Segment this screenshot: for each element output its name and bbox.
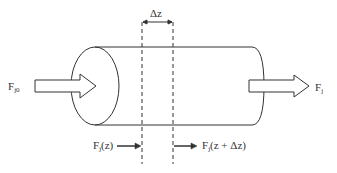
flow-in-z-label: Fj(z)	[93, 140, 113, 153]
flow-in-arrow-icon	[117, 143, 141, 149]
cylinder	[71, 47, 264, 125]
delta-z-dimension	[143, 20, 172, 24]
reactor-diagram	[0, 0, 337, 173]
flow-in-z-argument: (z)	[101, 139, 113, 151]
outlet-flow-subscript: j	[321, 87, 323, 95]
flow-out-arrow-icon	[174, 143, 197, 149]
delta-z-label: Δz	[150, 8, 162, 19]
inlet-arrow-icon	[35, 74, 96, 98]
outlet-flow-label: Fj	[315, 82, 323, 95]
differential-slice-lines	[142, 22, 173, 164]
inlet-flow-subscript: j0	[14, 86, 19, 94]
flow-out-z-argument: (z + Δz)	[210, 139, 246, 151]
outlet-arrow-icon	[249, 75, 309, 97]
flow-out-z-label: Fj(z + Δz)	[202, 140, 246, 153]
inlet-flow-label: Fj0	[8, 81, 20, 94]
